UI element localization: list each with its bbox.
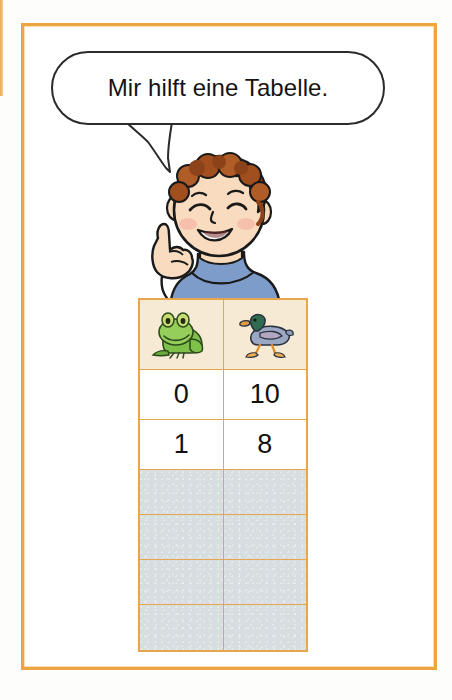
table-cell-frog-count[interactable] <box>140 605 224 650</box>
worksheet-page: Mir hilft eine Tabelle. <box>0 0 452 700</box>
table-cell-duck-count[interactable]: 10 <box>224 370 307 419</box>
speech-bubble-tail <box>122 118 192 176</box>
table-row[interactable]: 1 8 <box>140 420 306 470</box>
table-cell-frog-count[interactable] <box>140 470 224 514</box>
cell-value: 10 <box>250 381 280 408</box>
page-edge-artifact <box>0 0 3 96</box>
animal-count-table: 0 10 1 8 <box>138 298 308 652</box>
duck-icon <box>234 309 296 361</box>
cell-value: 1 <box>174 431 189 458</box>
frog-icon <box>150 309 212 361</box>
cell-value: 0 <box>174 381 189 408</box>
table-header-cell-frog <box>140 300 224 369</box>
table-row[interactable] <box>140 605 306 650</box>
table-cell-duck-count[interactable] <box>224 560 307 604</box>
table-row[interactable] <box>140 515 306 560</box>
cell-value: 8 <box>257 431 272 458</box>
table-cell-duck-count[interactable]: 8 <box>224 420 307 469</box>
table-cell-frog-count[interactable] <box>140 560 224 604</box>
table-row[interactable] <box>140 560 306 605</box>
table-header-row <box>140 300 306 370</box>
table-header-cell-duck <box>224 300 307 369</box>
speech-bubble: Mir hilft eine Tabelle. <box>51 51 385 125</box>
table-cell-duck-count[interactable] <box>224 470 307 514</box>
table-cell-duck-count[interactable] <box>224 515 307 559</box>
speech-bubble-text: Mir hilft eine Tabelle. <box>108 74 329 102</box>
table-cell-frog-count[interactable] <box>140 515 224 559</box>
table-cell-frog-count[interactable]: 0 <box>140 370 224 419</box>
table-cell-duck-count[interactable] <box>224 605 307 650</box>
table-cell-frog-count[interactable]: 1 <box>140 420 224 469</box>
table-row[interactable]: 0 10 <box>140 370 306 420</box>
table-row[interactable] <box>140 470 306 515</box>
